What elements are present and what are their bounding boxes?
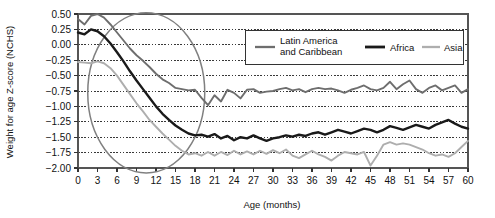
chart-figure: 0.500.250.00−0.25−0.50−0.75−1.00−1.25−1.… [0, 0, 495, 218]
x-tick-label: 30 [267, 175, 279, 186]
y-tick-label: −1.50 [46, 132, 72, 143]
x-tick-label: 24 [228, 175, 240, 186]
x-tick-label: 3 [95, 175, 101, 186]
legend-label: Latin America [280, 35, 338, 46]
x-tick-label: 0 [75, 175, 81, 186]
x-tick-label: 12 [150, 175, 162, 186]
x-tick-label: 15 [170, 175, 182, 186]
x-tick-label: 18 [189, 175, 201, 186]
x-tick-label: 36 [306, 175, 318, 186]
x-tick-labels: 03691215182124273033363942454851545760 [75, 175, 474, 186]
y-tick-label: −0.50 [46, 70, 72, 81]
y-axis-title: Weight for age Z-score (NCHS) [4, 26, 15, 158]
y-axis-ticks [74, 14, 78, 168]
y-tick-label: −0.75 [46, 86, 72, 97]
x-tick-label: 54 [423, 175, 435, 186]
x-tick-label: 33 [287, 175, 299, 186]
legend-label: Africa [390, 42, 415, 53]
x-tick-label: 27 [248, 175, 260, 186]
legend-label: and Caribbean [280, 46, 342, 57]
y-tick-label: −2.00 [46, 163, 72, 174]
x-tick-label: 21 [209, 175, 221, 186]
y-tick-label: −1.00 [46, 101, 72, 112]
y-tick-label: −0.25 [46, 55, 72, 66]
y-tick-label: −1.25 [46, 116, 72, 127]
y-tick-label: −1.75 [46, 147, 72, 158]
x-tick-label: 6 [114, 175, 120, 186]
x-tick-label: 42 [345, 175, 357, 186]
y-tick-label: 0.50 [52, 9, 72, 20]
legend-box: Latin Americaand CaribbeanAfricaAsia [245, 30, 463, 64]
legend-label: Asia [444, 42, 463, 53]
x-tick-label: 45 [365, 175, 377, 186]
x-tick-label: 57 [443, 175, 455, 186]
x-tick-label: 9 [134, 175, 140, 186]
x-tick-label: 51 [404, 175, 416, 186]
line-chart: 0.500.250.00−0.25−0.50−0.75−1.00−1.25−1.… [0, 0, 495, 218]
x-tick-label: 60 [462, 175, 474, 186]
x-tick-label: 48 [384, 175, 396, 186]
series-line [78, 61, 468, 165]
y-tick-label: 0.00 [52, 39, 72, 50]
y-tick-labels: 0.500.250.00−0.25−0.50−0.75−1.00−1.25−1.… [46, 9, 72, 174]
x-tick-label: 39 [326, 175, 338, 186]
x-axis-title: Age (months) [243, 199, 300, 210]
y-tick-label: 0.25 [52, 24, 72, 35]
